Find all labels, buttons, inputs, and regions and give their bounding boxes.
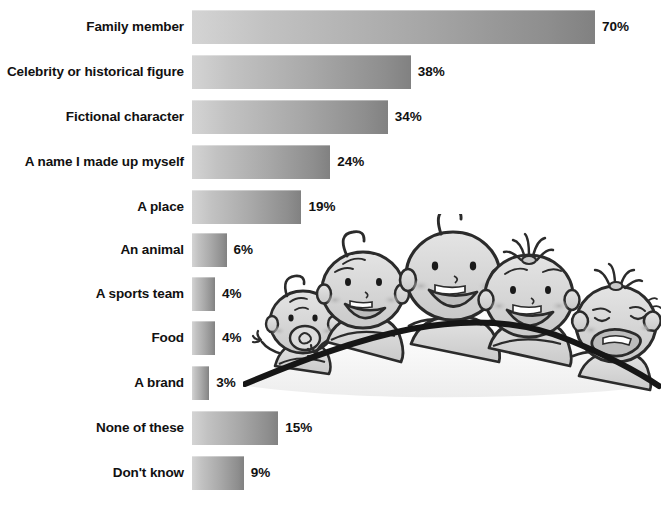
bar: [192, 145, 330, 179]
bar-value-label: 38%: [418, 65, 445, 79]
bar-row: None of these15%: [0, 411, 661, 445]
bar-value-label: 4%: [222, 287, 242, 301]
bar: [192, 100, 388, 134]
bar: [192, 277, 215, 311]
bar-value-label: 4%: [222, 331, 242, 345]
bar-row: Family member70%: [0, 10, 661, 44]
bar-and-value: 4%: [192, 321, 242, 355]
horizontal-bar-chart: Family member70%Celebrity or historical …: [0, 0, 661, 521]
bar: [192, 321, 215, 355]
bar-and-value: 19%: [192, 190, 335, 224]
bar-row: A sports team4%: [0, 277, 661, 311]
bar-value-label: 6%: [234, 243, 254, 257]
bar-rows-container: Family member70%Celebrity or historical …: [0, 0, 661, 521]
bar: [192, 55, 411, 89]
category-label: Celebrity or historical figure: [0, 65, 184, 79]
category-label: A place: [0, 200, 184, 214]
bar-and-value: 6%: [192, 233, 253, 267]
category-label: None of these: [0, 421, 184, 435]
bar-and-value: 3%: [192, 366, 236, 400]
category-label: An animal: [0, 243, 184, 257]
bar-value-label: 24%: [337, 155, 364, 169]
bar-and-value: 15%: [192, 411, 312, 445]
bar-value-label: 34%: [395, 110, 422, 124]
bar-row: An animal6%: [0, 233, 661, 267]
bar: [192, 411, 278, 445]
bar-and-value: 34%: [192, 100, 422, 134]
bar-row: Food4%: [0, 321, 661, 355]
bar-row: A brand3%: [0, 366, 661, 400]
bar-value-label: 70%: [602, 20, 629, 34]
bar-and-value: 38%: [192, 55, 445, 89]
bar-value-label: 19%: [308, 200, 335, 214]
bar-row: A name I made up myself24%: [0, 145, 661, 179]
bar-row: Fictional character34%: [0, 100, 661, 134]
bar-row: A place19%: [0, 190, 661, 224]
bar: [192, 10, 595, 44]
bar-value-label: 3%: [216, 376, 236, 390]
bar: [192, 190, 301, 224]
bar-row: Celebrity or historical figure38%: [0, 55, 661, 89]
bar-value-label: 15%: [285, 421, 312, 435]
category-label: A name I made up myself: [0, 155, 184, 169]
bar-and-value: 70%: [192, 10, 629, 44]
category-label: Don't know: [0, 466, 184, 480]
category-label: A brand: [0, 376, 184, 390]
category-label: Family member: [0, 20, 184, 34]
bar: [192, 456, 244, 490]
bar: [192, 366, 209, 400]
bar-and-value: 9%: [192, 456, 270, 490]
bar: [192, 233, 227, 267]
bar-and-value: 24%: [192, 145, 364, 179]
category-label: Food: [0, 331, 184, 345]
bar-and-value: 4%: [192, 277, 242, 311]
category-label: A sports team: [0, 287, 184, 301]
bar-row: Don't know9%: [0, 456, 661, 490]
category-label: Fictional character: [0, 110, 184, 124]
bar-value-label: 9%: [251, 466, 271, 480]
